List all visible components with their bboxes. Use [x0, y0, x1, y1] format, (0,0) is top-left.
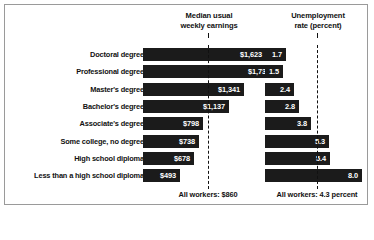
- bar-value-unemployment: 2.8: [285, 100, 295, 113]
- bar-unemployment: 1.5: [265, 65, 283, 78]
- bar-earnings: $1,341: [143, 83, 244, 96]
- bar-unemployment: 2.4: [265, 83, 294, 96]
- category-label: Bachelor's degree: [0, 100, 144, 113]
- reference-line-earnings: [208, 45, 209, 189]
- bar-unemployment: 2.8: [265, 100, 299, 113]
- bar-earnings: $1,137: [143, 100, 229, 113]
- bar-unemployment: 5.4: [265, 152, 330, 165]
- bar-value-earnings: $1,623: [240, 48, 262, 61]
- footer-all-workers-unemployment: All workers: 4.3 percent: [255, 190, 374, 199]
- category-label: Some college, no degree: [0, 135, 144, 148]
- category-label: High school diploma: [0, 152, 144, 165]
- bar-earnings: $1,623: [143, 48, 266, 61]
- bar-unemployment: 8.0: [265, 169, 362, 182]
- bar-unemployment: 5.3: [265, 135, 329, 148]
- bar-value-earnings: $1,341: [218, 83, 240, 96]
- bar-value-unemployment: 2.4: [280, 83, 290, 96]
- bar-earnings: $678: [143, 152, 194, 165]
- bar-value-earnings: $1,137: [203, 100, 225, 113]
- footer-all-workers-earnings: All workers: $860: [148, 190, 268, 199]
- bar-earnings: $798: [143, 117, 203, 130]
- bar-value-earnings: $678: [174, 152, 190, 165]
- category-label: Doctoral degree: [0, 48, 144, 61]
- bar-earnings: $738: [143, 135, 199, 148]
- bar-value-unemployment: 1.7: [272, 48, 282, 61]
- bar-earnings: $493: [143, 169, 180, 182]
- category-label: Professional degree: [0, 65, 144, 78]
- bar-value-earnings: $798: [183, 117, 199, 130]
- category-label: Master's degree: [0, 83, 144, 96]
- category-label: Associate's degree: [0, 117, 144, 130]
- bar-unemployment: 1.7: [265, 48, 286, 61]
- bar-value-unemployment: 8.0: [348, 169, 358, 182]
- bar-value-unemployment: 1.5: [269, 65, 279, 78]
- bar-value-unemployment: 3.8: [297, 117, 307, 130]
- bar-value-earnings: $738: [179, 135, 195, 148]
- reference-line-unemployment: [317, 45, 318, 189]
- bar-unemployment: 3.8: [265, 117, 311, 130]
- bar-value-earnings: $493: [160, 169, 176, 182]
- category-label: Less than a high school diploma: [0, 169, 144, 182]
